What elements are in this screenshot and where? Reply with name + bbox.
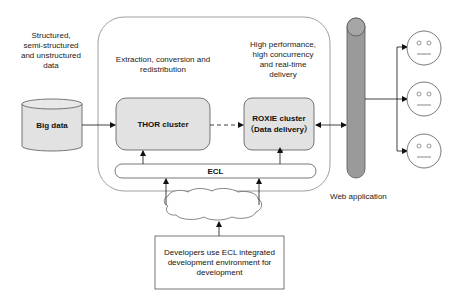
web-application-tube — [347, 18, 365, 178]
user-face-icon-1 — [407, 31, 441, 65]
user-face-icon-3 — [407, 134, 441, 168]
performance-label: High performance, high concurrency and r… — [238, 40, 328, 80]
cloud-shape — [164, 188, 261, 220]
ecl-label: ECL — [115, 164, 316, 178]
thor-cluster-label: THOR cluster — [116, 98, 210, 150]
source-data-label: Structured, semi-structured and unstruct… — [10, 31, 92, 71]
big-data-label: Big data — [22, 115, 82, 135]
web-application-label: Web application — [330, 192, 400, 202]
extraction-label: Extraction, conversion and redistributio… — [108, 55, 218, 75]
developers-label: Developers use ECL integrated developmen… — [155, 236, 284, 289]
user-face-icon-2 — [407, 82, 441, 116]
roxie-cluster-label: ROXIE cluster （Data delivery） — [244, 98, 314, 150]
